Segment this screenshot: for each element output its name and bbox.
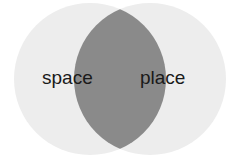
set-label-space: space [42,67,93,88]
set-label-place: place [140,67,185,88]
venn-diagram: space place [0,0,236,160]
